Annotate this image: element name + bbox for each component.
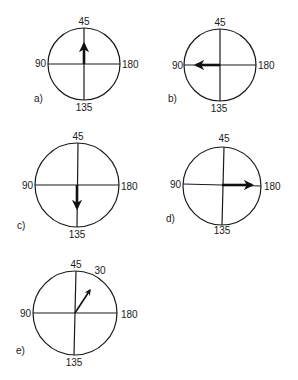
diagram-e: 45 30 90 180 135 e) [16,259,138,368]
tick-left: 90 [35,58,47,69]
tick-left: 90 [20,308,32,319]
tick-top: 45 [78,16,90,27]
diagram-a: 45 90 180 135 a) [34,16,139,113]
diagram-b: 45 90 180 135 b) [168,17,275,114]
arrow-icon [75,290,90,313]
tick-right: 180 [264,181,281,192]
tick-left: 90 [170,179,182,190]
panel-label: c) [17,220,25,231]
tick-left: 90 [22,180,34,191]
panel-label: e) [16,345,25,356]
tick-bottom: 135 [214,225,231,236]
tick-bottom: 135 [76,102,93,113]
diagram-d: 45 90 180 135 d) [166,133,281,236]
tick-right: 180 [258,60,275,71]
tick-bottom: 135 [66,357,83,368]
tick-right: 180 [122,59,139,70]
tick-top: 45 [72,131,84,142]
tick-bottom: 135 [211,103,228,114]
tick-left: 90 [172,60,184,71]
panel-label: a) [34,93,43,104]
polarization-diagram-figure: 45 90 180 135 a) 45 90 180 135 b) 45 90 … [0,0,298,380]
panel-label: b) [168,93,177,104]
tick-extra: 30 [94,265,106,276]
diagram-c: 45 90 180 135 c) [17,131,138,240]
tick-right: 180 [121,309,138,320]
tick-top: 45 [70,259,82,270]
tick-right: 180 [121,181,138,192]
tick-bottom: 135 [69,229,86,240]
tick-top: 45 [218,133,230,144]
panel-label: d) [166,213,175,224]
tick-top: 45 [214,17,226,28]
